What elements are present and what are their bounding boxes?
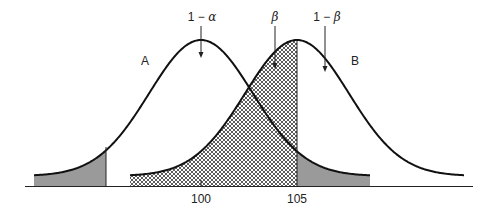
tick-label-100: 100 [191,192,211,206]
curve-label-b: B [351,54,359,68]
svg-text:1 − β: 1 − β [313,10,340,24]
alpha-lower-tail-region [34,150,106,186]
power-diagram: 100 105 A B 1 − α β 1 − β [0,0,495,216]
annotation-one-minus-alpha: 1 − α [188,10,216,58]
curve-label-a: A [141,54,149,68]
svg-text:1 − α: 1 − α [188,10,216,24]
beta-region [130,40,297,186]
tick-label-105: 105 [287,192,307,206]
alpha-upper-tail-region [297,151,370,186]
svg-text:β: β [271,10,279,24]
diagram-canvas: 100 105 A B 1 − α β 1 − β [0,0,495,216]
annotation-one-minus-beta: 1 − β [313,10,340,72]
